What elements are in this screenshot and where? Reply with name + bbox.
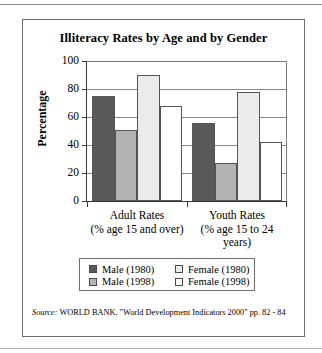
gridline-80	[87, 89, 287, 90]
y-tick-label-60: 60	[40, 111, 86, 123]
source-prefix: Source:	[32, 308, 58, 317]
y-tick-label-100: 100	[40, 55, 86, 67]
legend-swatch-male-1980	[89, 265, 97, 273]
legend-row-2: Male (1998) Female (1998)	[89, 276, 254, 289]
x-group-label-adult-sub: (% age 15 and over)	[87, 223, 187, 237]
page-bottom-rule	[0, 348, 322, 349]
chart-title: Illiteracy Rates by Age and by Gender	[23, 31, 304, 46]
legend-label-female-1980: Female (1980)	[188, 264, 250, 275]
chart-legend: Male (1980) Female (1980) Male (1998) Fe…	[79, 258, 255, 291]
legend-swatch-male-1998	[89, 278, 97, 286]
legend-label-male-1980: Male (1980)	[102, 264, 154, 275]
bar-adult-male-1980	[92, 96, 115, 201]
gridline-100	[87, 61, 287, 62]
legend-item-male-1998: Male (1998)	[89, 276, 175, 287]
bar-youth-male-1980	[192, 123, 215, 201]
y-tick-label-20: 20	[40, 167, 86, 179]
bar-adult-female-1998	[160, 106, 183, 201]
x-tick-right	[286, 201, 287, 207]
x-group-label-youth: Youth Rates (% age 15 to 24 years)	[187, 209, 287, 250]
plot-area: 100 80 60 40 20 0 Adult Rates (% age 1	[86, 61, 287, 202]
x-group-label-youth-main: Youth Rates	[187, 209, 287, 223]
figure-frame: Illiteracy Rates by Age and by Gender Pe…	[22, 19, 305, 337]
bar-adult-male-1998	[115, 130, 138, 201]
bar-adult-female-1980	[137, 75, 160, 201]
legend-item-female-1980: Female (1980)	[175, 264, 250, 275]
y-tick-label-0: 0	[40, 195, 86, 207]
bar-youth-female-1980	[237, 92, 260, 201]
source-text: WORLD BANK, "World Development Indicator…	[59, 308, 285, 317]
x-tick-left	[87, 201, 88, 207]
legend-label-male-1998: Male (1998)	[102, 276, 154, 287]
bar-youth-male-1998	[215, 163, 238, 201]
legend-item-female-1998: Female (1998)	[175, 276, 250, 287]
x-group-label-adult-main: Adult Rates	[87, 209, 187, 223]
legend-swatch-female-1980	[175, 265, 183, 273]
legend-row-1: Male (1980) Female (1980)	[89, 263, 254, 276]
y-tick-label-80: 80	[40, 83, 86, 95]
legend-item-male-1980: Male (1980)	[89, 264, 175, 275]
x-group-label-adult: Adult Rates (% age 15 and over)	[87, 209, 187, 236]
bar-youth-female-1998	[260, 142, 283, 201]
x-group-label-youth-sub: (% age 15 to 24 years)	[187, 223, 287, 250]
plot-wrapper: Percentage 100 80 60 40 20 0	[23, 56, 304, 236]
legend-label-female-1998: Female (1998)	[188, 276, 250, 287]
x-tick-middle	[187, 201, 188, 207]
y-tick-label-40: 40	[40, 139, 86, 151]
legend-swatch-female-1998	[175, 278, 183, 286]
page-top-rule	[0, 4, 322, 5]
source-note: Source: WORLD BANK, "World Development I…	[32, 308, 286, 317]
